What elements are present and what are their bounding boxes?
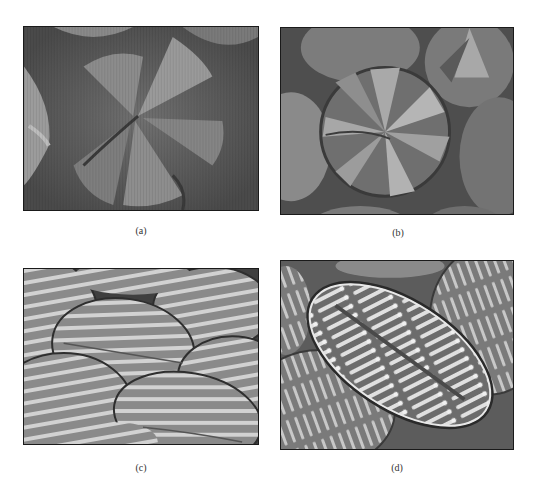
micrograph-image-c [24,269,258,444]
micrograph-panel-d [280,260,514,450]
micrograph-image-d [281,261,513,449]
caption-b: (b) [378,227,418,239]
micrograph-panel-a [23,26,259,211]
caption-d: (d) [377,462,417,474]
caption-c: (c) [121,462,161,474]
micrograph-image-a [24,27,258,210]
micrograph-panel-c [23,268,259,445]
micrograph-panel-b [280,27,514,215]
caption-a: (a) [121,225,161,237]
micrograph-image-b [281,28,513,214]
